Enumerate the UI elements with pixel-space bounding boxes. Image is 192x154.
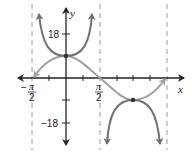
y-axis: y 18 −18 (41, 7, 75, 145)
x-tick-label-half-pi: π 2 (95, 81, 103, 103)
svg-text:−: − (21, 82, 27, 93)
y-tick-neg-18: −18 (41, 118, 58, 129)
point-max (64, 54, 69, 59)
svg-text:π: π (29, 81, 35, 92)
svg-text:2: 2 (29, 92, 35, 103)
x-tick-label-neg-half-pi: − π 2 (21, 81, 36, 103)
y-axis-label: y (69, 7, 75, 19)
svg-text:2: 2 (96, 92, 102, 103)
trig-graph: x y 18 −18 − π 2 π 2 (0, 0, 192, 154)
svg-text:π: π (96, 81, 102, 92)
y-tick-18: 18 (48, 29, 60, 40)
secant-branch-upper-right (66, 14, 92, 56)
x-axis-label: x (177, 83, 183, 95)
secant-branch-lower-left (107, 100, 133, 144)
secant-branch-lower-right (133, 100, 160, 144)
point-min (131, 98, 136, 103)
cosine-curve (34, 56, 66, 77)
